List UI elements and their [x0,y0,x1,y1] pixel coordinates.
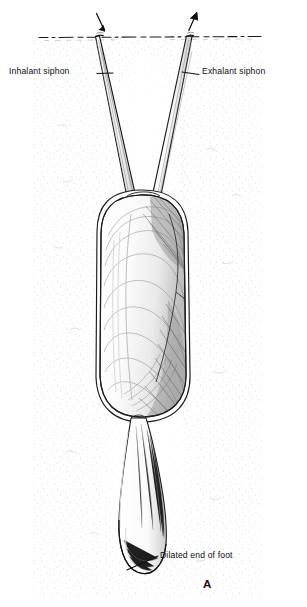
illustration-canvas [0,0,307,607]
leader-line-inhalant [97,73,113,74]
panel-letter: A [203,578,212,590]
label-inhalant-siphon: Inhalant siphon [9,67,70,76]
shell-valve [96,190,190,422]
arrow-up-outflow-icon [189,12,198,30]
label-dilated-end-of-foot: Dilated end of foot [160,551,233,560]
arrow-down-inflow-icon [97,14,105,32]
label-exhalant-siphon: Exhalant siphon [202,67,265,76]
bivalve-burrow-figure: Inhalant siphon Exhalant siphon Dilated … [0,0,307,607]
